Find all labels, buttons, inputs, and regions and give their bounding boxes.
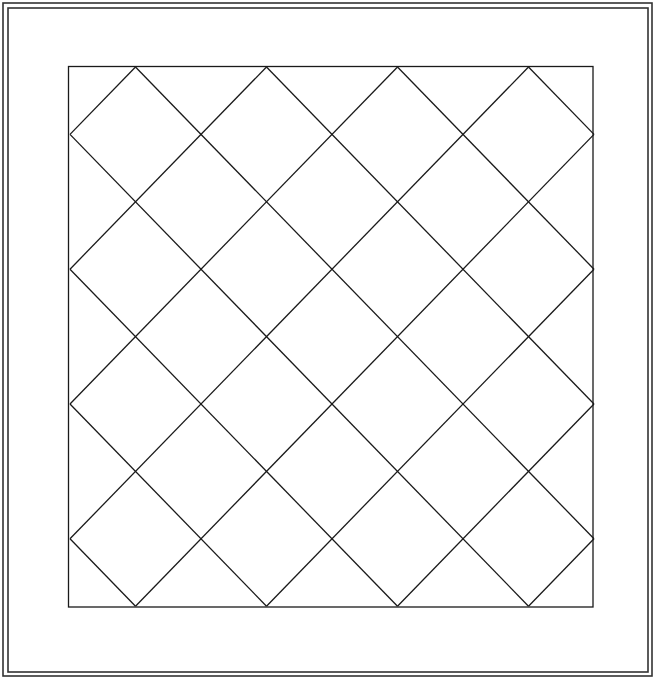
quilt-diagram (0, 0, 656, 680)
lattice-line (136, 134, 595, 606)
diamond-lattice (70, 67, 594, 606)
lattice-line (267, 67, 595, 404)
lattice-line (529, 67, 595, 134)
lattice-line (398, 404, 595, 606)
inner-panel-frame (69, 67, 594, 608)
lattice-line (70, 134, 529, 606)
lattice-line (70, 269, 398, 606)
inner-border-line (8, 8, 648, 672)
lattice-line (136, 67, 595, 539)
lattice-line (529, 539, 595, 606)
lattice-line (398, 67, 595, 269)
lattice-line (267, 269, 595, 606)
lattice-line (70, 67, 529, 539)
lattice-line (70, 67, 398, 404)
lattice-line (70, 67, 267, 269)
lattice-line (70, 539, 136, 606)
lattice-line (70, 404, 267, 606)
lattice-line (70, 67, 136, 134)
